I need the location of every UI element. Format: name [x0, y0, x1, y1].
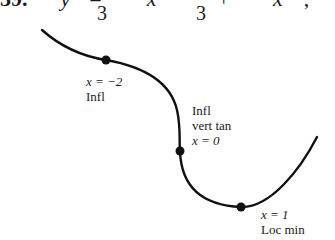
function-graph: [0, 0, 335, 240]
point-3-desc: Loc min: [261, 222, 305, 237]
point-1-desc: Infl: [86, 89, 122, 104]
curve: [42, 30, 317, 207]
point-2-label: Infl vert tan x = 0: [192, 103, 231, 148]
point-3-x: x = 1: [261, 207, 305, 222]
point-2-x: x = 0: [192, 133, 231, 148]
point-2-desc-2: vert tan: [192, 118, 231, 133]
point-3-label: x = 1 Loc min: [261, 207, 305, 237]
point-1-label: x = −2 Infl: [86, 74, 122, 104]
point-2-desc-1: Infl: [192, 103, 231, 118]
inflection-point-dot: [102, 56, 111, 65]
local-min-dot: [237, 203, 246, 212]
point-1-x: x = −2: [86, 74, 122, 89]
vertical-tangent-dot: [176, 147, 185, 156]
